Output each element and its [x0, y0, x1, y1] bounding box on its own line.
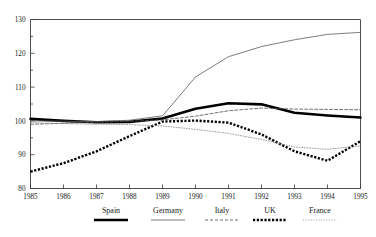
legend-item-uk: UK	[253, 206, 287, 220]
legend-item-france: France	[303, 206, 337, 220]
legend-item-italy: Italy	[205, 206, 239, 220]
x-tick-label: 1990	[188, 193, 203, 201]
x-tick-label: 1986	[56, 193, 71, 201]
legend-item-spain: Spain	[94, 206, 128, 220]
y-tick-label: 110	[15, 84, 26, 92]
y-tick-label: 90	[18, 151, 26, 159]
x-axis: 1985198619871988198919901991199219931994…	[23, 185, 368, 201]
series-line-france	[31, 123, 361, 150]
legend-label: France	[309, 206, 331, 215]
chart-canvas: 8090100110120130 19851986198719881989199…	[0, 0, 376, 237]
series-line-spain	[31, 103, 361, 122]
series-line-uk	[31, 121, 361, 172]
x-tick-label: 1989	[155, 193, 170, 201]
plot-frame	[31, 20, 361, 189]
x-tick-label: 1991	[221, 193, 236, 201]
x-tick-label: 1988	[122, 193, 137, 201]
cropped-title-artifact	[14, 0, 354, 6]
legend-label: Spain	[102, 206, 120, 215]
x-tick-label: 1985	[23, 193, 38, 201]
x-tick-label: 1992	[254, 193, 269, 201]
legend-label: UK	[264, 206, 276, 215]
chart-legend: SpainGermanyItalyUKFrance	[94, 206, 337, 220]
line-chart-figure: 8090100110120130 19851986198719881989199…	[0, 0, 376, 237]
y-tick-label: 130	[15, 16, 26, 24]
y-tick-label: 120	[15, 50, 26, 58]
x-tick-label: 1994	[320, 193, 335, 201]
legend-label: Italy	[215, 206, 230, 215]
data-series-group	[31, 32, 361, 171]
y-axis: 8090100110120130	[15, 16, 35, 193]
x-tick-label: 1993	[287, 193, 302, 201]
legend-label: Germany	[153, 206, 183, 215]
legend-item-germany: Germany	[151, 206, 185, 220]
x-tick-label: 1987	[89, 193, 104, 201]
x-tick-label: 1995	[353, 193, 368, 201]
y-tick-label: 100	[15, 118, 26, 126]
